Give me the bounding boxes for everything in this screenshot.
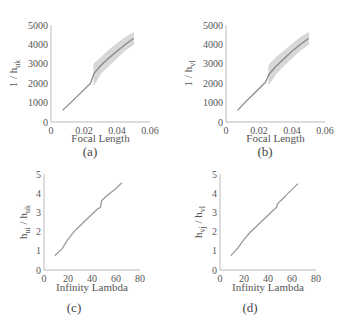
- chart-panel-b: 01000200030004000500000.020.040.06Focal …: [175, 0, 347, 165]
- y-tick-label: 0: [218, 117, 223, 128]
- caption-b: (b): [245, 144, 285, 160]
- x-tick-label: 0.06: [316, 125, 334, 136]
- y-tick-label: 0: [212, 265, 217, 276]
- y-tick-label: 5000: [28, 20, 48, 31]
- x-axis-label: Focal Length: [246, 132, 305, 144]
- x-tick-label: 80: [135, 273, 145, 284]
- y-axis-label: 1 / hvl: [182, 60, 197, 87]
- y-axis-label: 1 / huk: [7, 60, 22, 88]
- y-tick-label: 1: [36, 245, 41, 256]
- y-tick-label: 4: [212, 188, 217, 199]
- y-axis-label: hui / huk: [17, 205, 32, 239]
- confidence-band: [94, 33, 134, 85]
- x-axis-label: Infinity Lambda: [56, 281, 128, 293]
- confidence-band: [269, 33, 309, 84]
- y-tick-label: 5000: [203, 20, 223, 31]
- data-line: [231, 184, 298, 256]
- chart-c: 012345020406080Infinity Lambdahui / huk: [0, 165, 175, 300]
- y-tick-label: 4000: [28, 39, 48, 50]
- y-tick-label: 1000: [28, 97, 48, 108]
- y-tick-label: 2000: [203, 78, 223, 89]
- y-tick-label: 2000: [28, 78, 48, 89]
- caption-a: (a): [70, 144, 110, 160]
- chart-a: 01000200030004000500000.020.040.06Focal …: [0, 0, 175, 145]
- chart-panel-a: 01000200030004000500000.020.040.06Focal …: [0, 0, 175, 165]
- y-tick-label: 3000: [28, 58, 48, 69]
- y-tick-label: 3000: [203, 58, 223, 69]
- chart-panel-d: 012345020406080Infinity Lambdahvj / hvl …: [175, 165, 347, 329]
- x-tick-label: 0: [42, 273, 47, 284]
- y-tick-label: 0: [36, 265, 41, 276]
- x-tick-label: 0: [218, 273, 223, 284]
- x-tick-label: 80: [311, 273, 321, 284]
- y-tick-label: 2: [36, 226, 41, 237]
- chart-d: 012345020406080Infinity Lambdahvj / hvl: [175, 165, 347, 300]
- chart-panel-c: 012345020406080Infinity Lambdahui / huk …: [0, 165, 175, 329]
- y-tick-label: 1: [212, 245, 217, 256]
- x-tick-label: 0.06: [141, 125, 159, 136]
- x-axis-label: Infinity Lambda: [232, 281, 304, 293]
- x-tick-label: 0: [49, 125, 54, 136]
- y-tick-label: 1000: [203, 97, 223, 108]
- chart-b: 01000200030004000500000.020.040.06Focal …: [175, 0, 347, 145]
- y-tick-label: 4000: [203, 39, 223, 50]
- y-tick-label: 4: [36, 188, 41, 199]
- caption-c: (c): [54, 300, 94, 316]
- caption-d: (d): [230, 300, 270, 316]
- x-axis-label: Focal Length: [71, 132, 130, 144]
- y-axis-label: hvj / hvl: [192, 205, 207, 238]
- y-tick-label: 5: [212, 169, 217, 180]
- y-tick-label: 3: [212, 207, 217, 218]
- y-tick-label: 2: [212, 226, 217, 237]
- y-tick-label: 0: [43, 117, 48, 128]
- y-tick-label: 5: [36, 169, 41, 180]
- y-tick-label: 3: [36, 207, 41, 218]
- data-line: [55, 183, 122, 256]
- x-tick-label: 0: [224, 125, 229, 136]
